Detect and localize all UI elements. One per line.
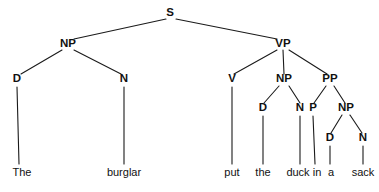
edge-d-to-the1 [17, 87, 19, 164]
leaf-sack: sack [352, 166, 375, 178]
edge-vp-to-v [234, 50, 277, 74]
node-np-object: NP [276, 72, 292, 84]
leaf-duck: duck [286, 166, 310, 178]
leaf-the-1: The [13, 166, 32, 178]
leaf-burglar: burglar [107, 166, 142, 178]
node-n-sack: N [359, 131, 367, 143]
edge-np-subject-to-n [74, 50, 121, 74]
leaf-put: put [224, 166, 239, 178]
syntax-tree-figure: S NP VP D N V NP PP D N P NP D N The bur… [0, 0, 379, 192]
edge-vp-to-np-object [283, 50, 284, 74]
node-np-sack: NP [338, 101, 354, 113]
leaf-in: in [313, 166, 322, 178]
node-s: S [166, 6, 174, 18]
edge-p-to-in [313, 116, 315, 164]
leaf-the-2: the [255, 166, 270, 178]
node-v-put: V [228, 72, 236, 84]
edge-s-to-np-subject [74, 19, 166, 39]
node-n-duck: N [296, 101, 304, 113]
node-d-the2: D [259, 101, 267, 113]
syntax-tree-canvas: S NP VP D N V NP PP D N P NP D N The bur… [0, 0, 379, 192]
edge-vp-to-pp [289, 50, 327, 74]
node-vp: VP [275, 37, 291, 49]
node-pp: PP [322, 72, 338, 84]
edge-s-to-vp [176, 19, 277, 39]
node-n-burglar: N [120, 72, 128, 84]
node-np-subject: NP [60, 37, 76, 49]
edge-np-subject-to-d [21, 50, 62, 74]
leaf-a: a [328, 166, 335, 178]
node-p-in: P [309, 101, 317, 113]
node-d-a: D [326, 131, 334, 143]
node-d-the1: D [13, 72, 21, 84]
